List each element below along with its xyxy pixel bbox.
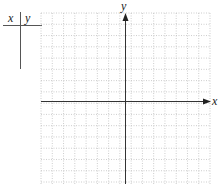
y-axis-label: y xyxy=(121,0,126,14)
x-axis-label: x xyxy=(212,94,217,109)
coordinate-grid[interactable] xyxy=(0,0,221,184)
y-axis xyxy=(123,13,129,184)
y-axis-arrow-icon xyxy=(123,13,129,21)
